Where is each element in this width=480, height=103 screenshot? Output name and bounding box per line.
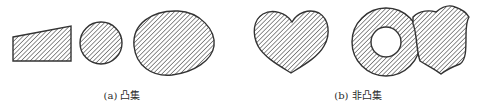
shield-shape [413, 6, 469, 74]
egg-shape [134, 11, 214, 75]
panel-b-nonconvex-sets [254, 6, 469, 76]
caption-convex-sets: (a) 凸集 [104, 87, 141, 102]
annulus-shape [352, 8, 420, 76]
heart-shape [254, 11, 328, 73]
caption-nonconvex-sets: (b) 非凸集 [334, 87, 381, 102]
trapezoid-shape [13, 26, 71, 61]
convex-sets-figure [0, 0, 480, 103]
panel-a-convex-sets [13, 11, 214, 75]
circle-shape [80, 22, 122, 64]
